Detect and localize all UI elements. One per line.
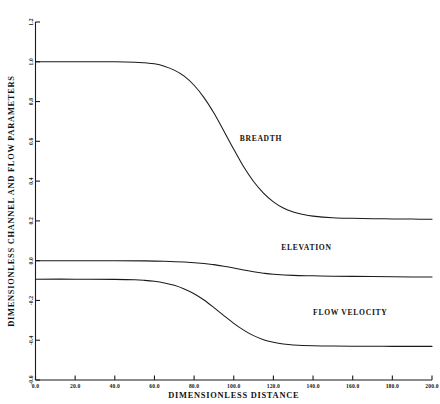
y-tick-label: 0.6	[28, 138, 34, 145]
annotation-breadth: BREADTH	[240, 134, 282, 143]
x-tick-labels: 0.020.040.060.080.0100.0120.0140.0160.01…	[32, 383, 439, 389]
x-tick-label: 40.0	[110, 383, 120, 389]
x-tick-label: 80.0	[189, 383, 199, 389]
x-axis	[36, 376, 433, 381]
annotation-elevation: ELEVATION	[281, 243, 331, 252]
y-tick-label: 0.4	[28, 177, 34, 184]
x-tick-label: 140.0	[306, 383, 319, 389]
x-tick-label: 200.0	[425, 383, 438, 389]
y-tick-label: -0.6	[28, 375, 34, 385]
curve-breadth	[36, 62, 433, 220]
y-tick-labels: -0.6-0.4-0.20.00.20.40.60.81.01.2	[28, 18, 34, 385]
curve-annotations: BREADTHELEVATIONFLOW VELOCITY	[240, 134, 388, 317]
y-tick-label: 0.2	[28, 217, 34, 224]
line-chart: 0.020.040.060.080.0100.0120.0140.0160.01…	[0, 0, 440, 404]
y-tick-label: 0.8	[28, 98, 34, 105]
annotation-flow-velocity: FLOW VELOCITY	[313, 308, 387, 317]
x-tick-label: 20.0	[70, 383, 80, 389]
y-tick-label: 0.0	[28, 257, 34, 264]
x-tick-label: 100.0	[227, 383, 240, 389]
x-tick-label: 120.0	[267, 383, 280, 389]
y-tick-label: -0.4	[28, 335, 34, 345]
chart-page: 0.020.040.060.080.0100.0120.0140.0160.01…	[0, 0, 440, 404]
x-tick-label: 180.0	[386, 383, 399, 389]
x-tick-label: 60.0	[149, 383, 159, 389]
y-tick-label: 1.0	[28, 58, 34, 65]
y-tick-label: 1.2	[28, 18, 34, 25]
x-axis-title: DIMENSIONLESS DISTANCE	[168, 391, 299, 400]
y-axis-title: DIMENSIONLESS CHANNEL AND FLOW PARAMETER…	[7, 75, 16, 326]
x-tick-label: 160.0	[346, 383, 359, 389]
y-axis	[36, 22, 41, 380]
curve-elevation	[36, 261, 433, 277]
curve-group	[36, 62, 433, 347]
y-tick-label: -0.2	[28, 296, 34, 306]
